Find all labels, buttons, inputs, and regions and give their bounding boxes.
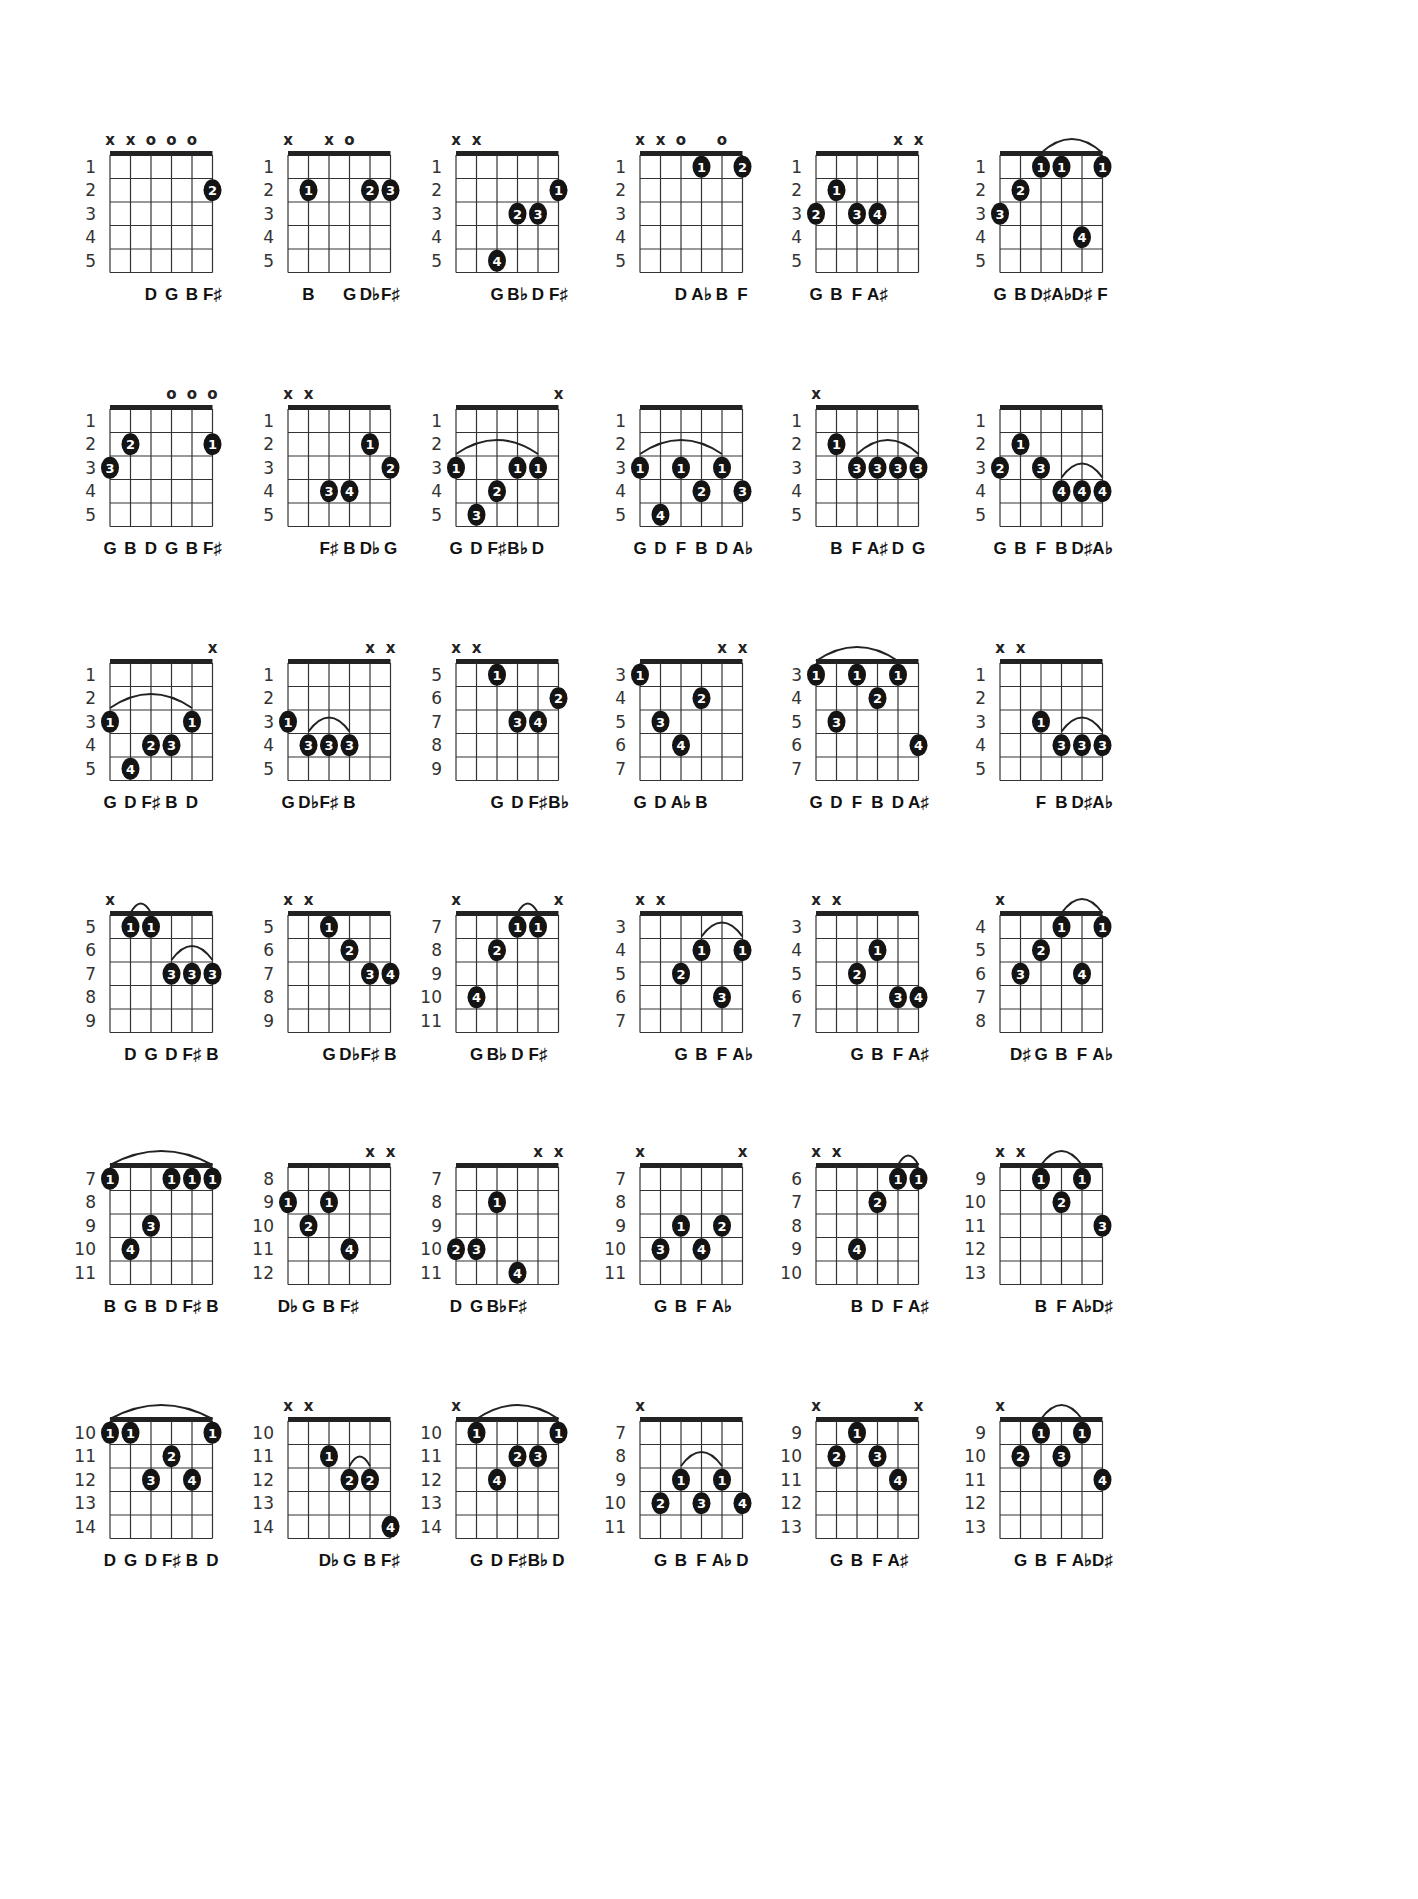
note-label: G [809,793,822,812]
note-label: B [302,285,314,304]
svg-text:1: 1 [105,1426,114,1441]
finger-dot: 4 [889,1469,907,1491]
finger-dot: 2 [488,480,506,502]
muted-string-icon: x [283,1397,293,1415]
finger-dot: 1 [122,916,140,938]
fret-number: 4 [615,688,626,708]
nut-bar [288,1163,391,1168]
svg-text:2: 2 [676,967,685,982]
note-label: G [103,793,116,812]
muted-string-icon: x [451,639,461,657]
fret-number: 12 [420,1470,442,1490]
note-label: B [343,539,355,558]
barre-arc [350,1456,371,1466]
finger-dot: 1 [672,1215,690,1237]
finger-dot: 4 [910,986,928,1008]
fret-number: 8 [263,987,274,1007]
fret-number: 11 [420,1011,442,1031]
chord-diagram: 45678x11234D♯GBFA♭ [940,875,1110,1105]
note-label: A♭ [732,1045,752,1064]
fret-number: 4 [263,481,274,501]
fret-number: 9 [615,1470,626,1490]
svg-text:1: 1 [635,461,644,476]
note-label: D♭ [339,1045,359,1064]
svg-text:1: 1 [832,183,841,198]
svg-text:4: 4 [656,508,665,523]
note-label: A♭ [1051,285,1071,304]
svg-text:4: 4 [1077,230,1086,245]
muted-string-icon: x [324,131,334,149]
muted-string-icon: x [832,1143,842,1161]
nut-bar [816,1417,919,1422]
fret-number: 5 [791,712,802,732]
fret-number: 3 [975,458,986,478]
finger-dot: 3 [1094,734,1112,756]
fret-number: 2 [263,434,274,454]
fret-number: 10 [420,1239,442,1259]
note-label: F [852,793,862,812]
note-label: G [165,285,178,304]
fret-number: 1 [431,157,442,177]
svg-text:4: 4 [492,254,501,269]
note-label: B [695,539,707,558]
finger-dot: 1 [529,457,547,479]
muted-string-icon: x [533,1143,543,1161]
note-label: A♭ [671,793,691,812]
fret-number: 14 [252,1517,274,1537]
fret-number: 7 [431,917,442,937]
fret-number: 8 [791,1216,802,1236]
fret-number: 12 [252,1263,274,1283]
finger-dot: 3 [101,457,119,479]
note-label: G [830,1551,843,1570]
finger-dot: 2 [693,480,711,502]
finger-dot: 3 [320,734,338,756]
muted-string-icon: x [105,131,115,149]
fret-number: 5 [615,251,626,271]
note-label: B [145,1297,157,1316]
fret-number: 9 [85,1216,96,1236]
open-string-icon: o [166,131,176,149]
note-label: D [470,539,482,558]
svg-text:1: 1 [1077,1172,1086,1187]
note-label: G [654,1551,667,1570]
fret-number: 3 [615,458,626,478]
finger-dot: 1 [1053,156,1071,178]
finger-dot: 4 [869,203,887,225]
note-label: B♭ [487,1297,507,1316]
chord-diagram: 12345xx1333GD♭F♯B [228,623,398,853]
finger-dot: 2 [848,963,866,985]
fret-number: 3 [791,665,802,685]
fret-number: 9 [263,1192,274,1212]
finger-dot: 3 [529,1445,547,1467]
note-label: B♭ [528,1551,548,1570]
note-label: D [450,1297,462,1316]
finger-dot: 3 [163,734,181,756]
note-label: G [470,1045,483,1064]
finger-dot: 2 [828,1445,846,1467]
fret-number: 13 [420,1493,442,1513]
svg-text:1: 1 [167,1172,176,1187]
finger-dot: 3 [1094,1215,1112,1237]
finger-dot: 1 [279,711,297,733]
fret-number: 3 [263,204,274,224]
note-label: D♭ [360,539,380,558]
fret-number: 8 [431,940,442,960]
nut-bar [288,911,391,916]
svg-text:1: 1 [105,715,114,730]
svg-text:2: 2 [717,1219,726,1234]
finger-dot: 1 [734,939,752,961]
note-label: G [850,1045,863,1064]
barre-arc [816,647,898,661]
svg-text:2: 2 [554,691,563,706]
muted-string-icon: x [304,891,314,909]
note-label: G [281,793,294,812]
finger-dot: 1 [1012,433,1030,455]
note-label: D [165,1045,177,1064]
svg-text:1: 1 [492,668,501,683]
svg-text:2: 2 [513,207,522,222]
svg-text:1: 1 [208,1172,217,1187]
muted-string-icon: x [304,1397,314,1415]
svg-text:1: 1 [676,1219,685,1234]
nut-bar [640,911,743,916]
note-label: D♯ [1031,285,1052,304]
